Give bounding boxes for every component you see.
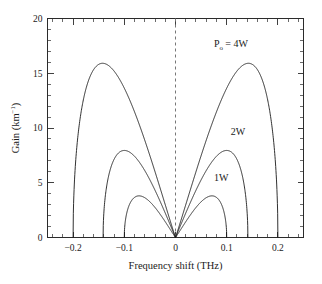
x-tick-label: 0.2 xyxy=(272,243,284,253)
y-tick-label: 15 xyxy=(33,69,43,79)
y-axis-title-exponent: −1 xyxy=(9,106,16,113)
series-label-p-o-4w: Po = 4W xyxy=(214,38,249,51)
annotations-group: Po = 4W2W1WFrequency shift (THz)Gain (km… xyxy=(9,38,248,272)
y-tick-label: 20 xyxy=(33,14,43,24)
y-axis-title-base: Gain (km xyxy=(10,113,22,153)
y-axis-title-tail: ) xyxy=(10,102,22,106)
y-axis-title: Gain (km−1) xyxy=(9,102,21,153)
gain-spectrum-chart: −0.2−0.100.10.205101520 Po = 4W2W1WFrequ… xyxy=(0,0,322,284)
x-tick-label: 0 xyxy=(173,243,178,253)
series-label-1w: 1W xyxy=(214,172,229,183)
gain-curve-1w-negative xyxy=(124,196,175,238)
y-tick-label: 5 xyxy=(38,178,43,188)
y-tick-label: 10 xyxy=(33,123,43,133)
x-axis-title: Frequency shift (THz) xyxy=(129,260,223,272)
gain-curve-2w-negative xyxy=(103,150,175,237)
series-label-tail: = 4W xyxy=(223,38,249,49)
figure-container: −0.2−0.100.10.205101520 Po = 4W2W1WFrequ… xyxy=(0,0,322,284)
x-tick-label: −0.1 xyxy=(116,243,133,253)
x-tick-label: −0.2 xyxy=(64,243,81,253)
gain-curve-2w-positive xyxy=(176,150,248,237)
x-tick-label: 0.1 xyxy=(221,243,233,253)
gain-curve-1w-positive xyxy=(176,196,227,238)
y-tick-label: 0 xyxy=(38,233,43,243)
series-label-2w: 2W xyxy=(231,126,246,137)
